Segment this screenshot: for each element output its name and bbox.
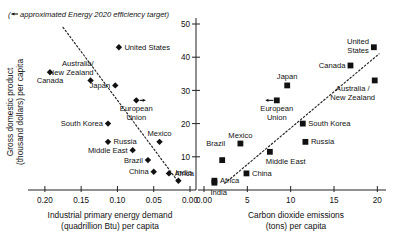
data-point-label: States [347,46,369,55]
right-x-axis-tick-label: 10 [286,196,296,205]
left-x-axis-tick-label: 0.05 [146,196,162,205]
data-point: Japan [90,81,119,90]
data-point-label: Japan [90,81,111,90]
data-point-diamond-marker [145,157,151,163]
data-point-label: Middle East [88,146,129,155]
arrow-left-head-icon [12,12,15,15]
data-point-diamond-marker [105,139,111,145]
dual-scatter-chart: ( approximated Energy 2020 efficiency ta… [0,0,394,248]
right-x-axis-label: Carbon dioxide emissions (tons) per capi… [248,210,344,231]
note-text: approximated Energy 2020 efficiency targ… [20,10,169,19]
data-point-label: South Korea [61,119,104,128]
y-axis-label: Gross domestic product (thousand dollars… [5,59,25,165]
data-point: Middle East [266,149,307,166]
data-point-label: Africa [220,176,240,185]
efficiency-target-note: ( approximated Energy 2020 efficiency ta… [8,10,169,19]
data-point: Japan [277,72,298,88]
data-point: Russia [303,137,335,146]
data-point: UnitedStates [347,37,377,55]
data-point-diamond-marker [156,139,162,145]
data-point-label: Canada [37,76,64,85]
data-point-label: Russia [311,137,335,146]
data-point-label: Brazil [206,139,225,148]
data-point: Canada [319,61,354,70]
data-point-label: Japan [277,72,298,81]
data-point: EuropeanUnion [120,97,153,122]
left-x-axis-label: Industrial primary energy demand (quadri… [48,210,173,231]
y-axis-tick-label: 40 [181,53,191,62]
data-point-label: United States [124,43,170,52]
y-axis-tick-label: 10 [181,153,191,162]
data-point-square-marker [267,149,273,155]
data-point-diamond-marker [151,169,157,175]
data-point: India [175,168,192,184]
target-arrow-left-head-icon [266,99,269,102]
right-x-axis-label-line2: (tons) per capita [266,221,327,231]
data-point-label: South Korea [308,119,351,128]
data-point-square-marker [219,157,225,163]
data-point-label: Mexico [147,129,171,138]
data-point: South Korea [61,119,111,128]
right-x-axis-tick-label: 20 [373,196,383,205]
data-point-label: Union [267,113,287,122]
data-point-label: China [129,167,150,176]
data-point-square-marker [372,78,378,84]
y-axis-label-line2: (thousand dollars) per capita [15,59,25,165]
data-point-label: New Zealand [330,93,375,102]
data-point-diamond-marker [166,170,172,176]
right-x-axis-tick-label: 0.00 [196,196,212,205]
data-point: China [129,167,157,176]
data-point: Australia /New Zealand [330,78,377,103]
data-point-diamond-marker [129,147,135,153]
note-paren-open: ( [8,10,12,19]
data-point-label: China [252,169,273,178]
data-point-label: Brazil [124,156,143,165]
data-point: Middle East [88,146,136,155]
data-point: EuropeanUnion [260,97,293,122]
data-point-square-marker [212,180,218,186]
data-point-square-marker [274,97,280,103]
y-axis-tick-label: 50 [181,20,191,29]
axes-group: 10203040500.200.150.100.050.000.00510152… [28,18,386,205]
data-point: Brazil [124,156,151,165]
data-series-group: United StatesCanadaAustralia/New Zealand… [37,27,379,196]
right-x-axis-label-line1: Carbon dioxide emissions [248,210,344,220]
right-x-axis-tick-label: 5 [245,196,250,205]
data-point-square-marker [371,44,377,50]
y-axis-tick-label: 20 [181,120,191,129]
data-point: China [244,169,273,178]
left-x-axis-label-line1: Industrial primary energy demand [48,210,173,220]
data-point: Mexico [147,129,171,145]
data-point-label: India [175,168,192,177]
data-point-label: Union [126,113,146,122]
data-point: United States [116,43,170,52]
target-arrow-right-head-icon [143,99,146,102]
y-axis-label-line1: Gross domestic product [5,67,15,156]
data-point-label: Mexico [228,131,252,140]
data-point-square-marker [284,83,290,89]
data-point-label: Middle East [266,157,307,166]
data-point-diamond-marker [112,82,118,88]
left-x-axis-label-line2: (quadrillion Btu) per capita [61,221,159,231]
right-x-axis-tick-label: 15 [329,196,339,205]
data-point-square-marker [348,63,354,69]
data-point-label: India [210,188,227,197]
data-point-diamond-marker [116,44,122,50]
data-point-square-marker [303,139,309,145]
data-point: Brazil [206,139,225,163]
data-point-diamond-marker [175,178,181,184]
data-point-square-marker [238,141,244,147]
data-point-diamond-marker [133,97,139,103]
data-point-diamond-marker [105,120,111,126]
data-point-square-marker [300,121,306,127]
data-point: Mexico [228,131,252,147]
left-x-axis-tick-label: 0.10 [109,196,125,205]
data-point-square-marker [244,171,250,177]
y-axis-tick-label: 30 [181,87,191,96]
data-point-label: New Zealand [49,68,94,77]
left-x-axis-tick-label: 0.20 [37,196,53,205]
data-point-label: Canada [319,61,346,70]
data-point: South Korea [300,119,351,128]
left-x-axis-tick-label: 0.15 [73,196,89,205]
scatter-figure-panel-pair: ( approximated Energy 2020 efficiency ta… [0,0,394,248]
